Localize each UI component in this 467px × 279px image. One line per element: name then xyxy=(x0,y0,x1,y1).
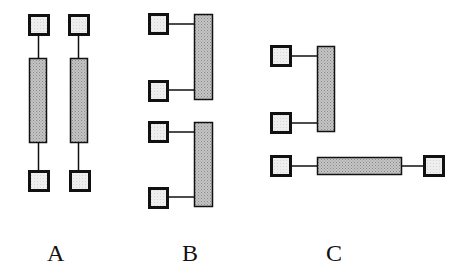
chain-a-right xyxy=(70,16,90,191)
label-a: A xyxy=(47,241,64,265)
chain-a-left xyxy=(30,16,49,191)
square-node xyxy=(272,157,291,176)
bar-node xyxy=(318,158,402,175)
cluster-c-horizontal xyxy=(272,157,444,176)
bar-node xyxy=(30,59,47,143)
cluster-c-vertical xyxy=(272,47,335,133)
square-node xyxy=(70,16,89,35)
square-node xyxy=(272,47,291,66)
square-node xyxy=(30,172,49,191)
diagram-canvas xyxy=(0,0,467,279)
square-node xyxy=(272,114,291,133)
square-node xyxy=(150,15,168,34)
group-b xyxy=(150,15,213,208)
group-a xyxy=(30,16,90,191)
square-node xyxy=(30,16,49,35)
bar-node xyxy=(318,47,335,132)
cluster-b-bottom xyxy=(150,123,213,208)
square-node xyxy=(150,189,168,208)
square-node xyxy=(71,172,90,191)
bar-node xyxy=(71,59,88,143)
square-node xyxy=(150,123,168,142)
label-c: C xyxy=(326,241,342,265)
square-node xyxy=(425,157,444,176)
bar-node xyxy=(195,123,213,207)
group-c xyxy=(272,47,444,176)
square-node xyxy=(150,82,168,101)
bar-node xyxy=(195,15,213,100)
label-b: B xyxy=(182,241,198,265)
cluster-b-top xyxy=(150,15,213,101)
